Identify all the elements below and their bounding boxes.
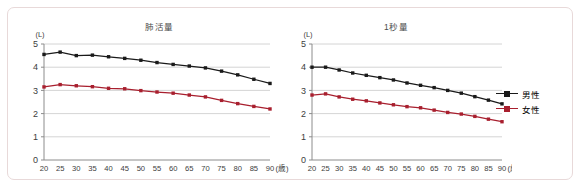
data-point-marker: [123, 57, 126, 60]
y-tick-label: 5: [301, 39, 306, 49]
x-tick-label: 35: [88, 164, 96, 173]
figure-frame: 肺活量 543210(L)202530354045505560657075808…: [7, 7, 573, 180]
x-tick-label: 25: [56, 164, 64, 173]
data-point-marker: [188, 93, 191, 96]
chart-plot-right: 543210(L)202530354045505560657075808590(…: [280, 8, 512, 181]
x-tick-label: 65: [430, 164, 438, 173]
data-point-marker: [236, 102, 239, 105]
x-tick-label: 45: [376, 164, 384, 173]
data-point-marker: [123, 87, 126, 90]
data-point-marker: [75, 84, 78, 87]
legend-label-male: 男性: [522, 88, 540, 100]
y-tick-label: 0: [33, 155, 38, 165]
data-point-marker: [460, 91, 463, 94]
x-tick-label: 35: [348, 164, 356, 173]
x-tick-label: 30: [335, 164, 343, 173]
data-point-marker: [324, 66, 327, 69]
legend-line-marker-female-icon: [496, 104, 518, 114]
chart-title-right: 1秒量: [280, 20, 582, 32]
x-tick-label: 50: [389, 164, 397, 173]
y-tick-label: 4: [301, 62, 306, 72]
data-point-marker: [252, 105, 255, 108]
x-tick-label: 25: [321, 164, 329, 173]
data-point-marker: [268, 107, 271, 110]
y-tick-label: 3: [301, 86, 306, 96]
data-point-marker: [419, 106, 422, 109]
data-point-marker: [419, 84, 422, 87]
x-tick-label: 75: [217, 164, 225, 173]
y-tick-label: 2: [301, 109, 306, 119]
legend: 男性 女性: [496, 86, 562, 116]
data-point-marker: [310, 93, 313, 96]
x-tick-label: 30: [72, 164, 80, 173]
data-point-marker: [405, 105, 408, 108]
y-tick-label: 0: [301, 155, 306, 165]
data-point-marker: [91, 85, 94, 88]
x-tick-label: 40: [362, 164, 370, 173]
data-point-marker: [378, 76, 381, 79]
data-point-marker: [487, 117, 490, 120]
x-tick-label: 70: [443, 164, 451, 173]
data-point-marker: [405, 81, 408, 84]
data-point-marker: [188, 64, 191, 67]
data-point-marker: [365, 74, 368, 77]
x-tick-label: 55: [403, 164, 411, 173]
data-point-marker: [220, 69, 223, 72]
data-point-marker: [392, 78, 395, 81]
data-point-marker: [220, 99, 223, 102]
data-point-marker: [107, 87, 110, 90]
x-tick-label: 90: [498, 164, 506, 173]
data-point-marker: [432, 86, 435, 89]
data-point-marker: [460, 112, 463, 115]
data-point-marker: [473, 95, 476, 98]
data-point-marker: [42, 53, 45, 56]
data-point-marker: [171, 63, 174, 66]
x-tick-label: 85: [484, 164, 492, 173]
y-tick-label: 1: [33, 132, 38, 142]
data-point-marker: [155, 61, 158, 64]
data-point-marker: [107, 55, 110, 58]
x-tick-label: 75: [457, 164, 465, 173]
y-tick-label: 3: [33, 86, 38, 96]
data-point-marker: [473, 115, 476, 118]
data-point-marker: [42, 85, 45, 88]
data-point-marker: [365, 99, 368, 102]
y-tick-label: 2: [33, 109, 38, 119]
x-tick-label: 80: [233, 164, 241, 173]
chart-title-left: 肺活量: [8, 20, 293, 32]
data-point-marker: [337, 68, 340, 71]
x-tick-label: 50: [137, 164, 145, 173]
x-tick-label: 45: [120, 164, 128, 173]
chart-plot-left: 543210(L)202530354045505560657075808590(…: [8, 8, 293, 181]
x-tick-label: 60: [416, 164, 424, 173]
data-point-marker: [139, 59, 142, 62]
data-point-marker: [252, 78, 255, 81]
data-point-marker: [351, 98, 354, 101]
x-tick-label: 60: [169, 164, 177, 173]
data-point-marker: [204, 66, 207, 69]
x-tick-label: 55: [153, 164, 161, 173]
x-tick-label: 20: [40, 164, 48, 173]
data-point-marker: [91, 53, 94, 56]
data-point-marker: [58, 83, 61, 86]
x-tick-label: 70: [201, 164, 209, 173]
x-tick-label: 65: [185, 164, 193, 173]
data-point-marker: [310, 66, 313, 69]
data-point-marker: [268, 82, 271, 85]
chart-vital-capacity: 肺活量 543210(L)202530354045505560657075808…: [8, 8, 293, 179]
data-point-marker: [337, 95, 340, 98]
x-tick-label: 80: [471, 164, 479, 173]
legend-item-female: 女性: [496, 101, 562, 116]
data-point-marker: [351, 71, 354, 74]
data-point-marker: [58, 50, 61, 53]
y-tick-label: 4: [33, 62, 38, 72]
data-point-marker: [75, 54, 78, 57]
data-point-marker: [500, 120, 503, 123]
x-tick-label: 40: [104, 164, 112, 173]
y-tick-label: 1: [301, 132, 306, 142]
data-point-marker: [487, 98, 490, 101]
data-point-marker: [432, 108, 435, 111]
data-point-marker: [446, 89, 449, 92]
data-point-marker: [446, 111, 449, 114]
data-point-marker: [236, 73, 239, 76]
